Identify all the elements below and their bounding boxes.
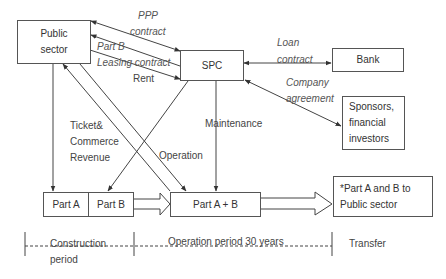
public-sector-box: Public sector [17,20,91,64]
hollow-arrow-operation-to-transfer [260,192,332,215]
operation-edge-label: Operation [159,148,203,164]
part-ab-box: Part A + B [170,192,261,217]
construction-period-label-1: Construction [50,236,106,252]
rent-label: Rent [133,71,154,87]
hollow-arrow-construction-to-operation [134,193,170,215]
part-a-box: Part A [43,192,89,217]
transfer-box: *Part A and B to Public sector [333,176,433,217]
company-label-1: Company [286,75,329,91]
company-label-2: agreement [286,91,334,107]
part-b-edge-label: Part B [97,39,125,55]
public-sector-label: Public sector [29,26,79,58]
part-ab-label: Part A + B [193,197,238,213]
sponsors-box: Sponsors, financial investors [342,96,405,150]
construction-period-label-2: period [50,252,78,268]
spc-box: SPC [180,50,244,81]
ticket-label-2: Commerce [70,134,119,150]
ticket-label-3: Revenue [70,150,110,166]
sponsors-label: Sponsors, financial investors [349,99,401,147]
operation-period-label: Operation period 30 years [168,234,284,250]
part-b-box: Part B [88,192,134,217]
bank-label: Bank [357,52,380,68]
leasing-label: Leasing contract [97,55,170,71]
spc-to-part-b-arrow [108,81,188,191]
part-a-label: Part A [52,197,79,213]
part-b-label: Part B [97,197,125,213]
ticket-label-1: Ticket& [70,118,103,134]
transfer-period-label: Transfer [349,236,386,252]
loan-label-1: Loan [277,35,299,51]
spc-label: SPC [202,58,223,74]
transfer-box-label: *Part A and B to Public sector [340,181,430,213]
ppp-label-2: contract [130,24,166,40]
loan-label-2: contract [277,52,313,68]
maintenance-label: Maintenance [205,116,262,132]
bank-box: Bank [332,48,404,72]
ppp-label-1: PPP [138,8,158,24]
